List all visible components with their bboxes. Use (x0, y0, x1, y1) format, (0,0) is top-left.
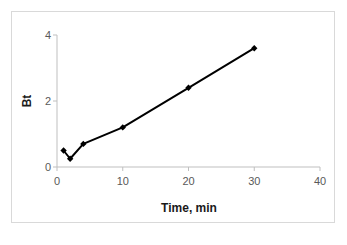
x-axis-tick-label: 20 (182, 176, 194, 187)
axis-lines (57, 35, 320, 167)
chart-container: 010203040 024 Time, min Bt (0, 0, 347, 245)
x-axis-tick-label: 0 (54, 176, 60, 187)
y-axis-ticks (53, 35, 57, 167)
data-series-markers (60, 45, 257, 162)
x-axis-tick-label: 10 (117, 176, 129, 187)
y-axis-title: Bt (21, 95, 33, 108)
x-axis-ticks (57, 167, 320, 171)
data-series-line (64, 48, 255, 159)
y-axis-tick-label: 4 (37, 30, 51, 41)
y-axis-tick-label: 2 (37, 96, 51, 107)
y-axis-tick-label: 0 (37, 162, 51, 173)
x-axis-tick-label: 40 (314, 176, 326, 187)
x-axis-tick-label: 30 (248, 176, 260, 187)
plot-area: 010203040 024 Time, min Bt (0, 0, 347, 245)
x-axis-title: Time, min (161, 202, 217, 214)
